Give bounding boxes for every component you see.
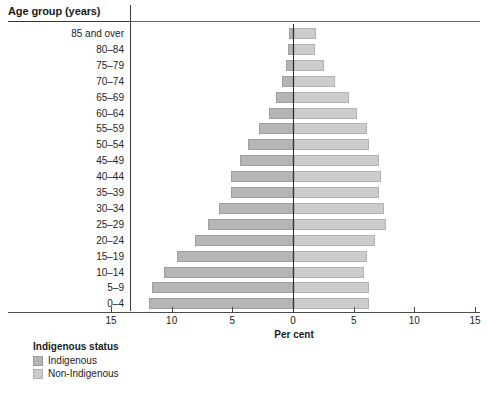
chart-row: 80–84 xyxy=(0,42,488,57)
bar-indigenous xyxy=(248,139,293,150)
age-group-label: 60–64 xyxy=(0,107,124,120)
bar-non-indigenous xyxy=(294,76,335,87)
bar-indigenous xyxy=(208,219,293,230)
bar-indigenous xyxy=(240,155,293,166)
chart-row: 70–74 xyxy=(0,74,488,89)
chart-row: 35–39 xyxy=(0,185,488,200)
bar-non-indigenous xyxy=(294,298,369,309)
bar-indigenous xyxy=(195,235,293,246)
age-group-label: 35–39 xyxy=(0,186,124,199)
bar-indigenous xyxy=(282,76,293,87)
legend-swatch-non-indigenous xyxy=(33,369,43,379)
population-pyramid-chart: Age group (years) 85 and over80–8475–797… xyxy=(0,0,488,396)
bar-indigenous xyxy=(286,60,293,71)
age-group-label: 65–69 xyxy=(0,91,124,104)
age-group-label: 20–24 xyxy=(0,234,124,247)
x-axis-tick xyxy=(172,307,173,313)
legend-item-indigenous: Indigenous xyxy=(33,355,119,367)
bar-indigenous xyxy=(152,282,293,293)
chart-row: 20–24 xyxy=(0,233,488,248)
chart-row: 55–59 xyxy=(0,121,488,136)
chart-row: 10–14 xyxy=(0,265,488,280)
bar-indigenous xyxy=(259,123,293,134)
age-group-label: 50–54 xyxy=(0,138,124,151)
chart-row: 5–9 xyxy=(0,280,488,295)
legend-label-non-indigenous: Non-Indigenous xyxy=(48,368,119,380)
bar-indigenous xyxy=(164,267,293,278)
bar-non-indigenous xyxy=(294,282,369,293)
bar-non-indigenous xyxy=(294,139,369,150)
x-axis-tick-label: 10 xyxy=(157,315,187,326)
x-axis-line xyxy=(8,312,480,313)
age-group-label: 45–49 xyxy=(0,154,124,167)
bar-non-indigenous xyxy=(294,123,367,134)
y-axis-title: Age group (years) xyxy=(8,5,100,17)
bar-indigenous xyxy=(231,187,293,198)
bar-non-indigenous xyxy=(294,108,357,119)
age-group-label: 40–44 xyxy=(0,170,124,183)
x-axis-tick xyxy=(414,307,415,313)
x-axis-tick-label: 10 xyxy=(399,315,429,326)
bar-non-indigenous xyxy=(294,155,379,166)
bar-indigenous xyxy=(149,298,293,309)
zero-axis-line xyxy=(293,24,294,313)
bar-non-indigenous xyxy=(294,187,379,198)
x-axis-tick xyxy=(354,307,355,313)
bar-non-indigenous xyxy=(294,267,364,278)
age-group-label: 25–29 xyxy=(0,218,124,231)
header-rule-secondary xyxy=(132,21,480,22)
bar-indigenous xyxy=(231,171,293,182)
bar-non-indigenous xyxy=(294,251,367,262)
bar-non-indigenous xyxy=(294,235,375,246)
x-axis-tick xyxy=(111,307,112,313)
bar-non-indigenous xyxy=(294,44,315,55)
age-group-label: 75–79 xyxy=(0,59,124,72)
bar-non-indigenous xyxy=(294,219,386,230)
chart-row: 30–34 xyxy=(0,201,488,216)
chart-row: 75–79 xyxy=(0,58,488,73)
chart-row: 65–69 xyxy=(0,90,488,105)
bar-indigenous xyxy=(276,92,293,103)
age-group-label: 0–4 xyxy=(0,297,124,310)
legend-item-non-indigenous: Non-Indigenous xyxy=(33,368,119,380)
age-group-label: 15–19 xyxy=(0,250,124,263)
x-axis-tick-label: 5 xyxy=(217,315,247,326)
x-axis-tick xyxy=(475,307,476,313)
x-axis-title-text: Per cent xyxy=(274,329,313,340)
age-group-label: 30–34 xyxy=(0,202,124,215)
age-group-label: 55–59 xyxy=(0,122,124,135)
age-group-label: 10–14 xyxy=(0,266,124,279)
x-axis-title: Per cent xyxy=(0,329,488,340)
chart-row: 25–29 xyxy=(0,217,488,232)
legend-swatch-indigenous xyxy=(33,356,43,366)
chart-row: 50–54 xyxy=(0,137,488,152)
bar-indigenous xyxy=(177,251,293,262)
chart-row: 40–44 xyxy=(0,169,488,184)
bar-non-indigenous xyxy=(294,203,384,214)
x-axis-tick-label: 5 xyxy=(339,315,369,326)
bar-non-indigenous xyxy=(294,171,381,182)
legend: Indigenous status Indigenous Non-Indigen… xyxy=(33,341,119,381)
legend-title: Indigenous status xyxy=(33,341,119,352)
chart-row: 85 and over xyxy=(0,26,488,41)
x-axis-tick-label: 15 xyxy=(460,315,488,326)
chart-row: 45–49 xyxy=(0,153,488,168)
bar-non-indigenous xyxy=(294,28,316,39)
bar-non-indigenous xyxy=(294,60,324,71)
bar-indigenous xyxy=(219,203,293,214)
age-group-label: 85 and over xyxy=(0,27,124,40)
x-axis-tick-label: 15 xyxy=(96,315,126,326)
bar-non-indigenous xyxy=(294,92,349,103)
legend-label-indigenous: Indigenous xyxy=(48,355,97,367)
chart-row: 15–19 xyxy=(0,249,488,264)
bar-indigenous xyxy=(269,108,293,119)
x-axis-tick xyxy=(232,307,233,313)
age-group-label: 5–9 xyxy=(0,281,124,294)
age-group-label: 80–84 xyxy=(0,43,124,56)
age-group-label: 70–74 xyxy=(0,75,124,88)
x-axis-tick-label: 0 xyxy=(278,315,308,326)
chart-row: 60–64 xyxy=(0,106,488,121)
